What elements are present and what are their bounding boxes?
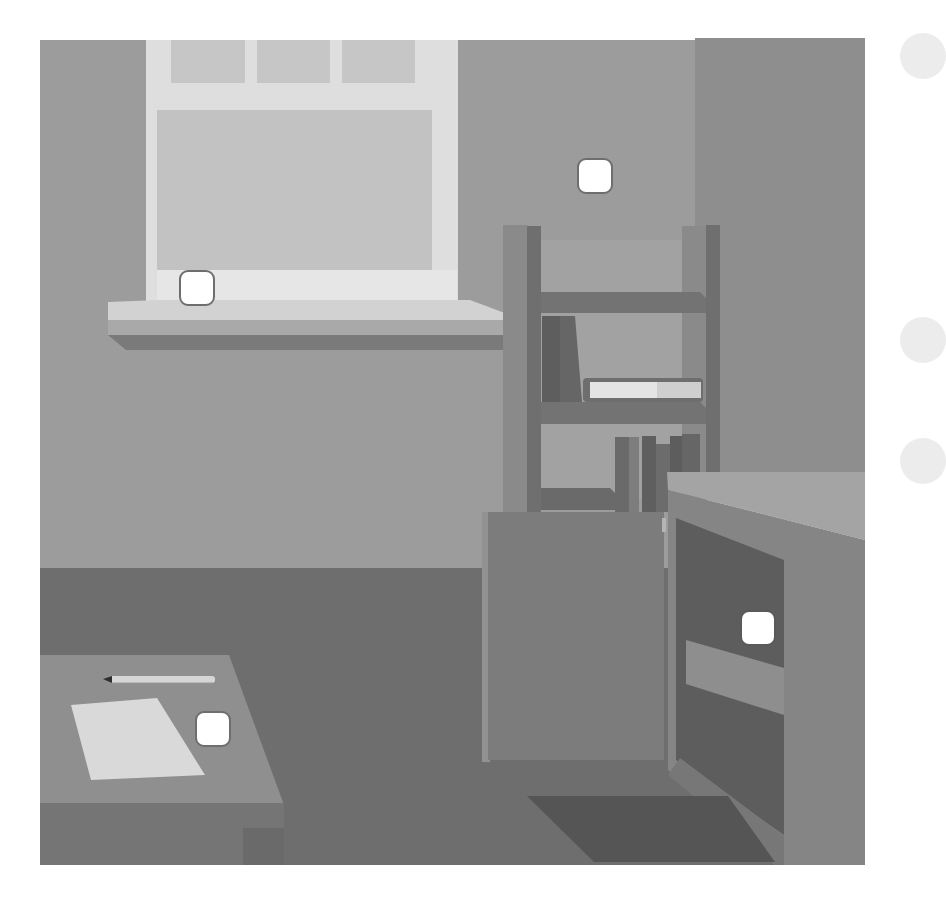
cabinet[interactable]: [482, 512, 666, 762]
book-lying[interactable]: [583, 378, 703, 402]
window-sill-hotspot[interactable]: Window sill: [179, 270, 215, 306]
cupboard-hotspot[interactable]: Open cupboard: [740, 610, 776, 646]
pencil[interactable]: [103, 676, 215, 683]
window-sill[interactable]: [108, 300, 518, 350]
wall-hotspot[interactable]: Wall: [577, 158, 613, 194]
desk-hotspot[interactable]: Desk: [195, 711, 231, 747]
wall-right: [695, 38, 865, 478]
window[interactable]: [146, 40, 458, 305]
side-button-2[interactable]: [900, 317, 946, 363]
side-button-3[interactable]: [900, 438, 946, 484]
side-button-1[interactable]: [900, 33, 946, 79]
